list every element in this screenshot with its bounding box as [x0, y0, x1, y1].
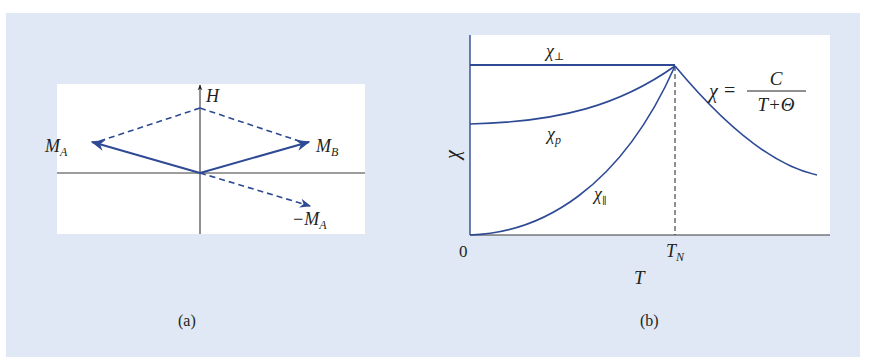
formula-equals: =: [724, 79, 735, 101]
figure-canvas: H MA MB −MA (a) χ⊥ χp χ∥ χ = C T+Θ: [0, 0, 874, 363]
formula-denominator: T+Θ: [757, 94, 794, 115]
caption-b: (b): [640, 312, 659, 330]
panel-a: H MA MB −MA (a): [44, 84, 365, 330]
x-axis-label: T: [634, 267, 646, 288]
y-axis-label: χ: [441, 149, 464, 161]
panel-b: χ⊥ χp χ∥ χ = C T+Θ χ 0 TN T (b): [441, 35, 830, 330]
caption-a: (a): [178, 312, 196, 330]
x-tick-tn: TN: [666, 241, 685, 264]
label-h: H: [205, 86, 220, 106]
x-tick-0: 0: [459, 242, 468, 261]
formula-lhs: χ: [707, 80, 719, 103]
formula-numerator: C: [770, 68, 783, 89]
